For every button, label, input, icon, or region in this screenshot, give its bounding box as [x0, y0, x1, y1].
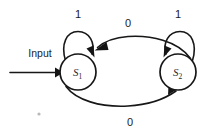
input-label: Input [28, 47, 51, 59]
edge-label-s1-to-s2: 0 [127, 116, 133, 128]
input-arrow [10, 68, 64, 78]
scan-speck-artifact [37, 112, 40, 115]
edge-label-s1-self-loop: 1 [75, 8, 81, 20]
s1-self-loop-arrowhead-icon [87, 46, 95, 58]
edge-label-s2-to-s1: 0 [125, 17, 131, 29]
state-diagram-canvas: S1 S2 1 1 0 0 Input [0, 0, 215, 132]
state-label-s1-sub: 1 [79, 72, 83, 81]
state-diagram-figure: S1 S2 1 1 0 0 Input [0, 0, 215, 132]
edge-label-s2-self-loop: 1 [175, 8, 181, 20]
state-label-s2-sub: 2 [179, 72, 183, 81]
s2-to-s1-arrowhead-icon [95, 42, 109, 51]
